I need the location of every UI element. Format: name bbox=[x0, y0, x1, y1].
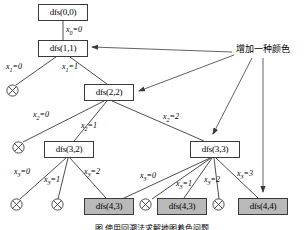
edge-label-x0-0: x0=0 bbox=[66, 26, 82, 36]
edge-n32-n43a bbox=[70, 158, 106, 198]
edge-label-sub: 0 bbox=[70, 30, 73, 36]
edge-label-x3-3-right: x3=3 bbox=[237, 170, 253, 180]
edge-label-sub: 2 bbox=[167, 117, 170, 123]
edge-label-x1-1: x1=1 bbox=[62, 63, 78, 73]
node-dfs-4-4[interactable]: dfs(4,4) bbox=[238, 198, 288, 215]
edge-label-sub: 3 bbox=[180, 184, 183, 190]
edge-n33-n43a bbox=[122, 158, 210, 199]
edge-label-val: 1 bbox=[188, 179, 192, 188]
edge-label-x3-1-left: x3=1 bbox=[44, 176, 60, 186]
edge-label-x3-0-left: x3=0 bbox=[14, 168, 30, 178]
edge-label-sub: 3 bbox=[144, 176, 147, 182]
edge-label-val: 1 bbox=[56, 175, 60, 184]
node-label: dfs(3,3) bbox=[202, 145, 229, 154]
edge-label-val: 2 bbox=[96, 167, 100, 176]
failure-leaf-icon bbox=[139, 198, 152, 211]
node-label: dfs(0,0) bbox=[50, 8, 77, 17]
edge-label-sub: 3 bbox=[88, 172, 91, 178]
edge-label-x3-1-right: x3=1 bbox=[176, 180, 192, 190]
edge-label-val: 0 bbox=[45, 110, 49, 119]
annot-arrow-to-n11 bbox=[92, 47, 232, 52]
annotation-add-one-color: 增加一种颜色 bbox=[236, 45, 290, 54]
edge-label-sub: 2 bbox=[37, 115, 40, 121]
annot-arrow-to-n33 bbox=[213, 58, 252, 134]
edge-label-val: 3 bbox=[249, 169, 253, 178]
edge-n22-n33 bbox=[112, 101, 204, 141]
edge-label-val: 2 bbox=[216, 175, 220, 184]
edge-label-sub: 3 bbox=[18, 172, 21, 178]
failure-leaf-icon bbox=[6, 84, 19, 97]
edge-label-val: 1 bbox=[74, 62, 78, 71]
edge-label-sub: 3 bbox=[208, 180, 211, 186]
edge-label-val: 0 bbox=[78, 25, 82, 34]
edge-label-val: 0 bbox=[18, 62, 22, 71]
node-dfs-3-2[interactable]: dfs(3,2) bbox=[44, 141, 94, 158]
figure-canvas: dfs(0,0) dfs(1,1) dfs(2,2) dfs(3,2) dfs(… bbox=[0, 0, 304, 230]
edge-label-x2-1: x2=1 bbox=[81, 122, 97, 132]
edge-label-x2-2: x2=2 bbox=[163, 113, 179, 123]
node-dfs-0-0[interactable]: dfs(0,0) bbox=[38, 4, 88, 21]
edge-n33-leaf5 bbox=[152, 158, 211, 199]
node-dfs-1-1[interactable]: dfs(1,1) bbox=[38, 40, 88, 57]
edge-label-x3-0-right: x3=0 bbox=[140, 172, 156, 182]
edge-label-x3-2-right: x3=2 bbox=[204, 176, 220, 186]
node-label: dfs(4,4) bbox=[250, 202, 277, 211]
failure-leaf-icon bbox=[12, 141, 25, 154]
edge-label-val: 0 bbox=[26, 167, 30, 176]
failure-leaf-icon bbox=[10, 198, 23, 211]
annot-arrow-to-n22 bbox=[139, 55, 234, 91]
edge-label-val: 2 bbox=[175, 112, 179, 121]
edge-label-x3-2-left: x3=2 bbox=[84, 168, 100, 178]
node-dfs-2-2[interactable]: dfs(2,2) bbox=[84, 84, 134, 101]
node-label: dfs(1,1) bbox=[50, 44, 77, 53]
edge-label-sub: 3 bbox=[241, 174, 244, 180]
node-dfs-4-3-a[interactable]: dfs(4,3) bbox=[84, 198, 134, 215]
edge-label-sub: 1 bbox=[66, 67, 69, 73]
node-dfs-3-3[interactable]: dfs(3,3) bbox=[190, 141, 240, 158]
edge-label-x1-0: x1=0 bbox=[6, 63, 22, 73]
node-label: dfs(3,2) bbox=[56, 145, 83, 154]
node-label: dfs(4,3) bbox=[169, 202, 196, 211]
edge-n11-leaf1 bbox=[16, 57, 56, 85]
figure-caption: 图 使用回溯法求解地图着色问题 bbox=[0, 225, 304, 230]
edge-label-sub: 1 bbox=[10, 67, 13, 73]
edge-label-val: 0 bbox=[152, 171, 156, 180]
edge-label-sub: 3 bbox=[48, 180, 51, 186]
edge-label-val: 1 bbox=[93, 121, 97, 130]
node-label: dfs(2,2) bbox=[96, 88, 123, 97]
node-label: dfs(4,3) bbox=[96, 202, 123, 211]
failure-leaf-icon bbox=[51, 198, 64, 211]
edge-label-x2-0: x2=0 bbox=[33, 111, 49, 121]
edge-label-sub: 2 bbox=[85, 126, 88, 132]
failure-leaf-icon bbox=[212, 198, 225, 211]
node-dfs-4-3-b[interactable]: dfs(4,3) bbox=[157, 198, 207, 215]
